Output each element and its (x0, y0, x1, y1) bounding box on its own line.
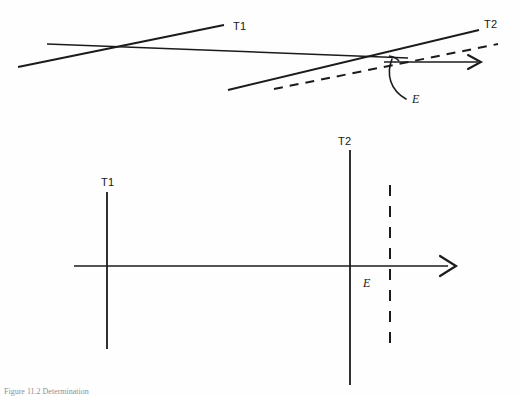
figure-canvas: T1 T2 E T1 T2 E Figure 11.2 Determinatio… (0, 0, 521, 396)
lower-label-t2: T2 (338, 135, 351, 147)
figure-root: T1 T2 E T1 T2 E Figure 11.2 Determinatio… (0, 0, 521, 396)
upper-angle-tick (389, 56, 399, 61)
upper-label-e: E (411, 92, 420, 106)
upper-t1-line (18, 25, 224, 67)
figure-caption: Figure 11.2 Determination (4, 387, 89, 396)
upper-t2-line (228, 30, 479, 90)
upper-dashed-projection-line (274, 44, 498, 89)
figure-caption-group: Figure 11.2 Determination (4, 387, 89, 396)
upper-label-t1: T1 (233, 20, 246, 32)
lower-label-t1: T1 (101, 176, 114, 188)
lower-label-e: E (362, 276, 371, 290)
upper-panel: T1 T2 E (18, 18, 498, 106)
lower-panel: T1 T2 E (74, 135, 456, 385)
upper-label-t2: T2 (484, 18, 497, 30)
